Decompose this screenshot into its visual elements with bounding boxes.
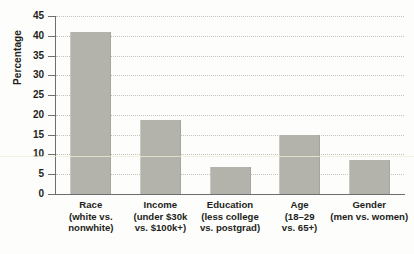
- gridline: [56, 16, 404, 17]
- y-axis-tick: [48, 154, 55, 155]
- bar: [210, 167, 251, 194]
- y-axis-tick-label: 40: [18, 31, 44, 41]
- bar-chart-figure: Percentage 454035302520151050 Race(white…: [0, 0, 414, 254]
- bar: [349, 160, 390, 194]
- x-axis-label-line: vs. 65+): [244, 222, 356, 234]
- x-axis-label: Gender(men vs. women): [313, 199, 414, 222]
- y-axis-tick: [48, 174, 55, 175]
- y-axis-tick: [48, 36, 55, 37]
- bar: [279, 135, 320, 194]
- x-axis-label-line: Gender: [313, 199, 414, 211]
- y-axis-tick-label: 10: [18, 149, 44, 159]
- y-axis-tick: [48, 194, 55, 195]
- y-axis-tick-label: 25: [18, 90, 44, 100]
- y-axis-tick-label: 35: [18, 51, 44, 61]
- y-axis-tick-label: 15: [18, 130, 44, 140]
- y-axis-tick: [48, 16, 55, 17]
- y-axis-tick: [48, 135, 55, 136]
- y-axis-tick: [48, 95, 55, 96]
- y-axis-tick: [48, 56, 55, 57]
- plot-area: [56, 16, 404, 194]
- y-axis-tick-label: 30: [18, 70, 44, 80]
- x-axis-label-line: (men vs. women): [313, 211, 414, 223]
- y-axis-tick-label: 0: [18, 189, 44, 199]
- y-axis-tick: [48, 75, 55, 76]
- bar: [140, 120, 181, 194]
- x-axis-line: [55, 194, 405, 195]
- y-axis-tick-label: 5: [18, 169, 44, 179]
- y-axis-tick-label: 20: [18, 110, 44, 120]
- bar: [70, 32, 111, 194]
- y-axis-line: [55, 16, 56, 195]
- y-axis-tick: [48, 115, 55, 116]
- x-axis-category-labels: Race(white vs.nonwhite)Income(under $30k…: [56, 199, 404, 254]
- y-axis-tick-label: 45: [18, 11, 44, 21]
